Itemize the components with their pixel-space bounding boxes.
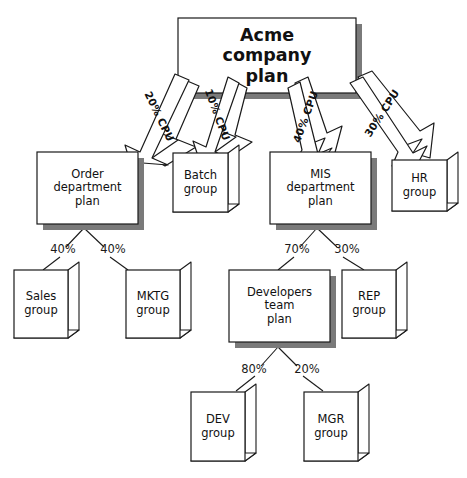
connector-dev-down <box>278 257 294 270</box>
edge-label-mis-rep: 30% <box>330 242 364 256</box>
edge-label-order-sales: 40% <box>46 242 80 256</box>
node-acme-company-plan[interactable] <box>178 18 362 99</box>
node-right-face <box>245 384 256 461</box>
connector-mktg-down <box>110 257 128 270</box>
node-right-face <box>228 145 239 212</box>
node-right-face <box>396 262 407 338</box>
node-box <box>173 153 228 212</box>
edge-label-devteam-mgr: 20% <box>290 362 324 376</box>
node-right-face <box>180 262 191 338</box>
node-right-face <box>447 152 458 211</box>
connector-rep-down <box>343 257 364 270</box>
node-sales-group[interactable] <box>14 262 79 338</box>
node-box <box>14 270 68 338</box>
node-box <box>37 152 138 224</box>
node-box <box>126 270 180 338</box>
diagram-svg: 20% CPU 10% CPU 40% CPU 30% CPU <box>0 0 467 478</box>
edge-label-order-mktg: 40% <box>96 242 130 256</box>
connector-sales-down <box>43 257 60 270</box>
node-rep-group[interactable] <box>342 262 407 338</box>
node-box <box>229 270 330 342</box>
node-mktg-group[interactable] <box>126 262 191 338</box>
node-box <box>178 18 356 93</box>
node-box <box>304 392 358 461</box>
node-mis-department-plan[interactable] <box>270 152 377 230</box>
node-box <box>270 152 371 224</box>
connector-mgr-down <box>303 376 323 391</box>
edge-label-mis-devteam: 70% <box>280 242 314 256</box>
node-developers-team-plan[interactable] <box>229 270 336 348</box>
node-mgr-group[interactable] <box>304 384 369 461</box>
node-box <box>191 392 245 461</box>
node-order-department-plan[interactable] <box>37 152 144 230</box>
node-hr-group[interactable] <box>392 152 458 211</box>
edge-label-devteam-dev: 80% <box>237 362 271 376</box>
node-dev-group[interactable] <box>191 384 256 461</box>
diagram-canvas: 20% CPU 10% CPU 40% CPU 30% CPU <box>0 0 467 478</box>
node-box <box>342 270 396 338</box>
node-box <box>392 160 447 211</box>
node-right-face <box>358 384 369 461</box>
node-right-face <box>68 262 79 338</box>
node-batch-group[interactable] <box>173 145 239 212</box>
